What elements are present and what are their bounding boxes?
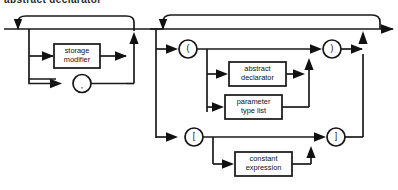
storage-out-arrowhead <box>115 51 127 60</box>
diagram-title-clip: abstract declarator <box>4 0 154 7</box>
page-title: abstract declarator <box>4 0 102 5</box>
rparen-in-arrowhead <box>310 44 322 53</box>
terminal-rparen-label: ) <box>331 43 334 53</box>
rparen-out-arrowhead <box>351 44 363 53</box>
diagram-exit-arrowhead <box>381 24 394 33</box>
lbracket-in-arrowhead <box>166 132 178 141</box>
storage-modifier-label-line2: modifier <box>64 55 91 64</box>
storage-in-arrowhead <box>42 51 54 60</box>
storage-modifier-label-line1: storage <box>65 46 90 55</box>
syntax-diagram: abstract declarator storage modifier , <box>0 0 398 190</box>
parameter-type-list-label-line2: type list <box>241 106 266 115</box>
bracket-inner-riser-arrowhead <box>306 146 315 158</box>
right-group-loopback-wire <box>163 15 380 29</box>
rbracket-in-arrowhead <box>314 132 326 141</box>
abstract-declarator-in-arrowhead <box>216 69 228 78</box>
abstract-declarator-label-line1: abstract <box>244 64 270 73</box>
storage-group-riser-arrowhead <box>129 32 138 44</box>
constant-expression-in-arrowhead <box>222 159 234 168</box>
terminal-comma-label: , <box>81 80 83 90</box>
abstract-declarator-label-line2: declarator <box>241 73 274 82</box>
terminal-lparen-label: ( <box>187 43 190 53</box>
abstract-declarator-out-arrowhead <box>293 69 305 78</box>
lparen-in-arrowhead <box>166 44 178 53</box>
constant-expression-label-line2: expression <box>246 163 282 172</box>
right-group-collect-arrowhead <box>358 31 367 44</box>
railroad-canvas: storage modifier , ( <box>0 0 398 190</box>
constant-expression-label-line1: constant <box>250 154 278 163</box>
terminal-rbracket-label: ] <box>335 131 337 141</box>
paren-inner-riser-arrowhead <box>304 58 313 70</box>
parameter-type-list-in-arrowhead <box>212 102 224 111</box>
parameter-type-list-label-line1: parameter <box>237 97 271 106</box>
